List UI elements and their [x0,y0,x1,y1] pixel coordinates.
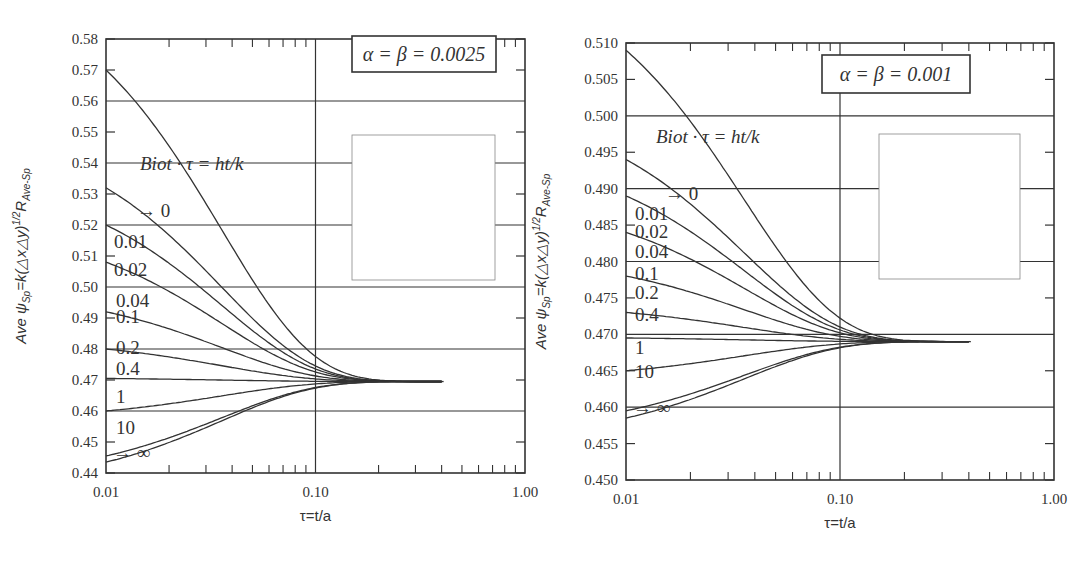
x-tick-label: 0.01 [613,491,639,507]
y-tick-label: 0.53 [72,186,98,202]
y-tick-label: 0.51 [72,248,98,264]
y-tick-label: 0.47 [72,372,99,388]
y-tick-label: 0.480 [584,254,618,270]
biot-annotation: Biot · τ = ht/k [140,153,244,174]
x-tick-label: 0.01 [93,484,119,500]
y-tick-label: 0.46 [72,403,99,419]
y-tick-label: 0.44 [72,465,99,481]
x-tick-label: 0.10 [827,491,853,507]
curve-label: 0.02 [635,221,668,242]
curve-label: 10 [116,417,135,438]
curve-label: 0.01 [114,231,147,252]
curve-label: 10 [635,361,654,382]
y-tick-label: 0.57 [72,62,99,78]
curve-label: → ∞ [113,442,150,463]
curve-label: 0.2 [116,337,140,358]
y-tick-label: 0.52 [72,217,98,233]
figure: 0.440.450.460.470.480.490.500.510.520.53… [0,0,1082,565]
y-tick-label: 0.56 [72,93,99,109]
param-label: α = β = 0.001 [840,63,952,86]
curve-label: 0.4 [116,358,140,379]
chart-alpha-beta-0-0025: 0.440.450.460.470.480.490.500.510.520.53… [11,31,538,524]
y-tick-label: 0.55 [72,124,98,140]
y-tick-label: 0.485 [584,217,618,233]
inset-figure [352,135,495,280]
biot-annotation: Biot · τ = ht/k [656,126,760,147]
curve-label: → 0 [665,183,698,204]
y-tick-label: 0.460 [584,399,618,415]
y-tick-label: 0.54 [72,155,99,171]
y-tick-label: 0.470 [584,326,618,342]
curve-label: → ∞ [633,397,670,418]
y-tick-label: 0.45 [72,434,98,450]
curve-label: 0.04 [635,241,669,262]
x-axis-title: τ=t/a [300,507,332,524]
curve-label: 0.1 [116,306,140,327]
y-tick-label: 0.510 [584,35,618,51]
y-tick-label: 0.475 [584,290,618,306]
y-tick-label: 0.455 [584,436,618,452]
y-tick-label: 0.495 [584,144,618,160]
curve-label: 0.1 [635,263,659,284]
y-tick-label: 0.490 [584,181,618,197]
y-axis-title: Ave ψSp=k(△x△y)1/2RAve-Sp [531,173,552,350]
chart-alpha-beta-0-001: 0.4500.4550.4600.4650.4700.4750.4800.485… [531,35,1067,531]
curve-label: 1 [116,386,126,407]
curve-label: 0.4 [635,304,659,325]
curve-label: 0.02 [114,259,147,280]
curve-label: → 0 [137,200,170,221]
curve-label: 0.2 [635,282,659,303]
x-axis-title: τ=t/a [824,514,856,531]
x-tick-label: 1.00 [1041,491,1067,507]
y-tick-label: 0.500 [584,108,618,124]
param-label: α = β = 0.0025 [363,43,485,66]
inset-figure [879,134,1020,279]
y-tick-label: 0.48 [72,341,98,357]
y-tick-label: 0.49 [72,310,98,326]
x-tick-label: 1.00 [512,484,538,500]
y-tick-label: 0.50 [72,279,98,295]
x-tick-label: 0.10 [302,484,328,500]
curve-label: 1 [635,337,645,358]
y-tick-label: 0.450 [584,472,618,488]
y-tick-label: 0.465 [584,363,618,379]
y-tick-label: 0.505 [584,71,618,87]
y-tick-label: 0.58 [72,31,98,47]
y-axis-title: Ave ψSp=k(△x△y)1/2RAve-Sp [11,168,32,345]
